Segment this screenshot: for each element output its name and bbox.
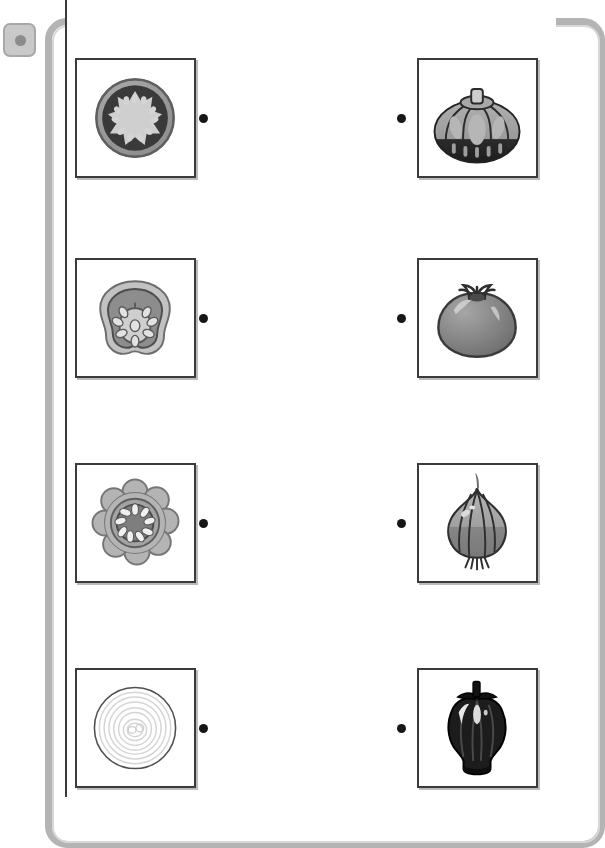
image-card-onion[interactable] bbox=[417, 463, 538, 583]
matching-row bbox=[0, 463, 556, 583]
pumpkin-cross-section-icon bbox=[77, 465, 194, 581]
tomato-icon bbox=[419, 260, 536, 376]
pepper-cross-section-icon bbox=[77, 260, 194, 376]
image-card-pumpkin[interactable] bbox=[417, 58, 538, 178]
connector-dot-left[interactable] bbox=[199, 724, 208, 733]
image-card-pumpkin-cross-section[interactable] bbox=[75, 463, 196, 583]
image-card-bell-pepper[interactable] bbox=[417, 668, 538, 788]
image-card-onion-cross-section[interactable] bbox=[75, 668, 196, 788]
toolbar-button[interactable] bbox=[3, 23, 36, 57]
connector-dot-right[interactable] bbox=[397, 314, 406, 323]
matching-row bbox=[0, 258, 556, 378]
connector-dot-left[interactable] bbox=[199, 519, 208, 528]
connector-dot-right[interactable] bbox=[397, 114, 406, 123]
onion-cross-section-icon bbox=[77, 670, 194, 786]
matching-row bbox=[0, 668, 556, 788]
connector-dot-left[interactable] bbox=[199, 114, 208, 123]
connector-dot-right[interactable] bbox=[397, 519, 406, 528]
tomato-cross-section-icon bbox=[77, 60, 194, 176]
matching-row bbox=[0, 58, 556, 178]
bell-pepper-icon bbox=[419, 670, 536, 786]
onion-icon bbox=[419, 465, 536, 581]
image-card-pepper-cross-section[interactable] bbox=[75, 258, 196, 378]
connector-dot-left[interactable] bbox=[199, 314, 208, 323]
connector-dot-right[interactable] bbox=[397, 724, 406, 733]
pumpkin-icon bbox=[419, 60, 536, 176]
image-card-tomato[interactable] bbox=[417, 258, 538, 378]
circle-dot-icon bbox=[15, 35, 26, 46]
image-card-tomato-cross-section[interactable] bbox=[75, 58, 196, 178]
